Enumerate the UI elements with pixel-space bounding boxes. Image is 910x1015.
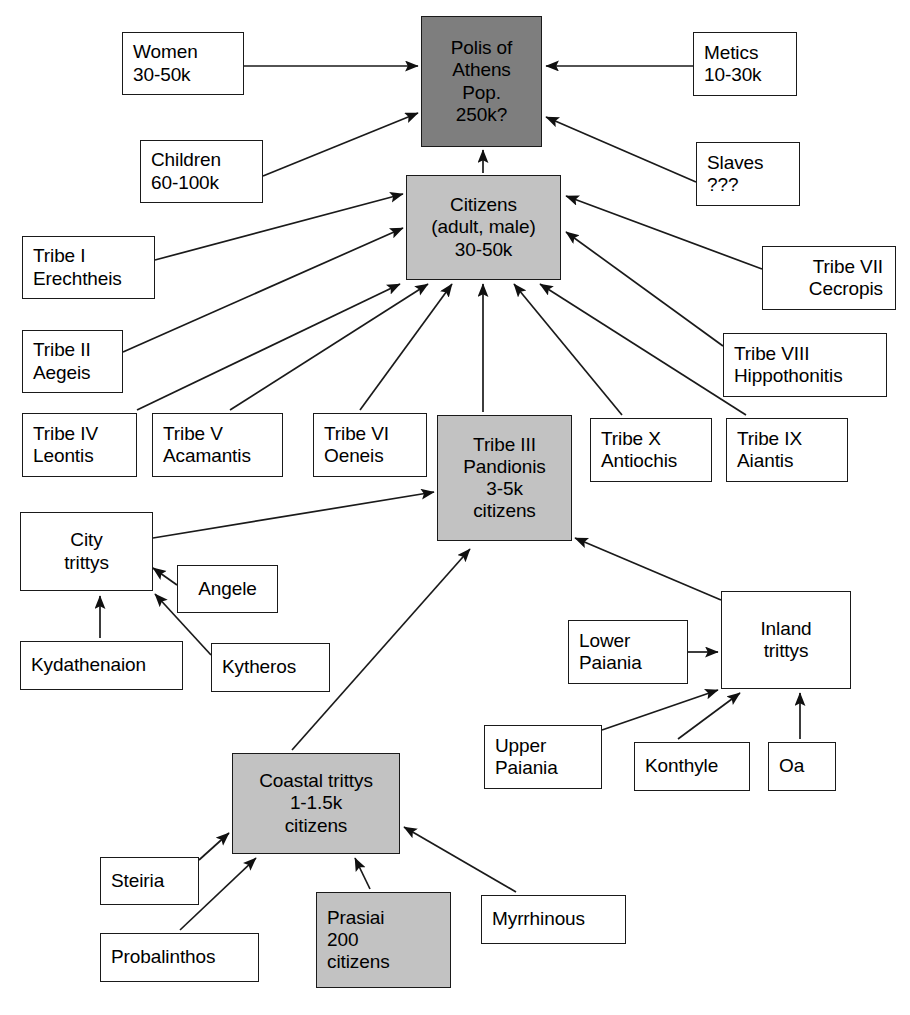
- node-tribe2[interactable]: Tribe IIAegeis: [22, 330, 123, 393]
- node-coastal[interactable]: Coastal trittys1-1.5kcitizens: [232, 753, 400, 854]
- node-tribe2-line: Tribe II: [33, 339, 91, 361]
- node-steiria[interactable]: Steiria: [100, 857, 199, 905]
- node-women-line: 30-50k: [133, 64, 191, 86]
- edge-myrrhinous-to-coastal: [404, 827, 516, 892]
- edge-tribe9-to-citizens: [540, 284, 746, 415]
- node-prasiai[interactable]: Prasiai200citizens: [316, 892, 451, 988]
- node-coastal-line: citizens: [285, 815, 348, 837]
- node-myrrhinous-line: Myrrhinous: [492, 908, 585, 930]
- node-tribe7[interactable]: Tribe VIICecropis: [762, 246, 896, 310]
- node-tribe6[interactable]: Tribe VIOeneis: [313, 413, 427, 477]
- node-polis-line: Pop.: [462, 82, 501, 104]
- node-tribe5[interactable]: Tribe VAcamantis: [152, 413, 283, 477]
- node-inland-line: trittys: [764, 640, 809, 662]
- node-children-line: Children: [151, 149, 221, 171]
- edge-tribe4-to-citizens: [137, 284, 400, 410]
- edge-citytrittys-to-tribe3: [153, 492, 434, 538]
- node-lowerpaiania[interactable]: LowerPaiania: [568, 620, 688, 684]
- node-tribe3-line: 3-5k: [486, 478, 523, 500]
- node-tribe5-line: Acamantis: [163, 445, 251, 467]
- edge-upperpaiania-to-inland: [602, 690, 718, 730]
- edge-tribe6-to-citizens: [360, 284, 452, 410]
- node-tribe5-line: Tribe V: [163, 423, 223, 445]
- node-tribe4[interactable]: Tribe IVLeontis: [22, 413, 137, 477]
- node-tribe1[interactable]: Tribe IErechtheis: [22, 236, 155, 299]
- node-tribe6-line: Oeneis: [324, 445, 384, 467]
- node-tribe10[interactable]: Tribe XAntiochis: [590, 418, 712, 482]
- node-tribe8[interactable]: Tribe VIIIHippothonitis: [723, 333, 887, 397]
- edge-tribe2-to-citizens: [123, 228, 403, 352]
- node-citytrittys-line: City: [70, 529, 102, 551]
- node-oa-line: Oa: [779, 755, 804, 777]
- node-inland-line: Inland: [760, 618, 811, 640]
- node-tribe8-line: Hippothonitis: [734, 365, 843, 387]
- edge-inland-to-tribe3: [575, 538, 721, 600]
- node-prasiai-line: Prasiai: [327, 907, 384, 929]
- node-lowerpaiania-line: Paiania: [579, 652, 642, 674]
- node-children-line: 60-100k: [151, 172, 219, 194]
- node-tribe9-line: Aiantis: [737, 450, 793, 472]
- node-tribe4-line: Leontis: [33, 445, 94, 467]
- node-upperpaiania[interactable]: UpperPaiania: [484, 725, 602, 789]
- node-slaves[interactable]: Slaves???: [696, 142, 800, 206]
- node-citytrittys-line: trittys: [64, 552, 109, 574]
- node-tribe1-line: Erechtheis: [33, 268, 122, 290]
- edge-tribe7-to-citizens: [566, 196, 762, 269]
- node-citizens-line: (adult, male): [431, 216, 535, 238]
- node-kydathenaion[interactable]: Kydathenaion: [20, 641, 183, 690]
- node-tribe3-line: Tribe III: [473, 434, 536, 456]
- edge-slaves-to-polis: [546, 117, 696, 182]
- node-tribe3-line: Pandionis: [463, 456, 546, 478]
- node-kytheros-line: Kytheros: [222, 656, 296, 678]
- node-tribe10-line: Tribe X: [601, 428, 661, 450]
- node-citizens-line: Citizens: [450, 194, 517, 216]
- node-children[interactable]: Children60-100k: [140, 140, 263, 203]
- edge-prasiai-to-coastal: [355, 858, 370, 889]
- edge-konthyle-to-inland: [678, 693, 740, 739]
- node-tribe6-line: Tribe VI: [324, 423, 389, 445]
- node-konthyle[interactable]: Konthyle: [634, 742, 750, 791]
- node-metics[interactable]: Metics10-30k: [693, 32, 797, 96]
- node-oa[interactable]: Oa: [768, 742, 836, 791]
- node-slaves-line: ???: [707, 174, 738, 196]
- node-citizens[interactable]: Citizens(adult, male)30-50k: [406, 175, 561, 280]
- node-tribe4-line: Tribe IV: [33, 423, 98, 445]
- node-probalinthos[interactable]: Probalinthos: [100, 933, 259, 982]
- node-kytheros[interactable]: Kytheros: [211, 643, 330, 692]
- node-upperpaiania-line: Upper: [495, 735, 546, 757]
- node-slaves-line: Slaves: [707, 152, 763, 174]
- node-tribe9-line: Tribe IX: [737, 428, 802, 450]
- node-upperpaiania-line: Paiania: [495, 757, 558, 779]
- node-steiria-line: Steiria: [111, 870, 164, 892]
- node-probalinthos-line: Probalinthos: [111, 946, 215, 968]
- node-angele-line: Angele: [198, 578, 257, 600]
- node-polis-line: 250k?: [456, 104, 507, 126]
- edge-tribe1-to-citizens: [155, 194, 403, 260]
- edge-tribe5-to-citizens: [230, 284, 428, 410]
- node-citytrittys[interactable]: Citytrittys: [20, 512, 153, 591]
- node-citizens-line: 30-50k: [455, 239, 513, 261]
- node-polis-line: Athens: [452, 59, 511, 81]
- node-inland[interactable]: Inlandtrittys: [721, 591, 851, 689]
- diagram-canvas: Polis ofAthensPop.250k?Women30-50kMetics…: [0, 0, 910, 1015]
- node-metics-line: Metics: [704, 42, 758, 64]
- edge-tribe10-to-citizens: [514, 284, 622, 415]
- node-prasiai-line: 200: [327, 929, 358, 951]
- node-tribe3-line: citizens: [473, 500, 536, 522]
- node-tribe7-line: Tribe VII: [813, 256, 883, 278]
- node-coastal-line: 1-1.5k: [290, 792, 342, 814]
- node-polis[interactable]: Polis ofAthensPop.250k?: [421, 16, 542, 147]
- node-tribe2-line: Aegeis: [33, 362, 91, 384]
- node-tribe9[interactable]: Tribe IXAiantis: [726, 418, 848, 482]
- node-coastal-line: Coastal trittys: [259, 770, 373, 792]
- node-myrrhinous[interactable]: Myrrhinous: [481, 895, 626, 944]
- node-tribe8-line: Tribe VIII: [734, 343, 809, 365]
- node-angele[interactable]: Angele: [177, 565, 278, 613]
- edge-steiria-to-coastal: [199, 833, 229, 860]
- node-polis-line: Polis of: [451, 37, 513, 59]
- node-women-line: Women: [133, 41, 198, 63]
- node-tribe3[interactable]: Tribe IIIPandionis3-5kcitizens: [437, 415, 572, 541]
- node-tribe1-line: Tribe I: [33, 245, 85, 267]
- node-women[interactable]: Women30-50k: [122, 32, 244, 95]
- node-kydathenaion-line: Kydathenaion: [31, 654, 146, 676]
